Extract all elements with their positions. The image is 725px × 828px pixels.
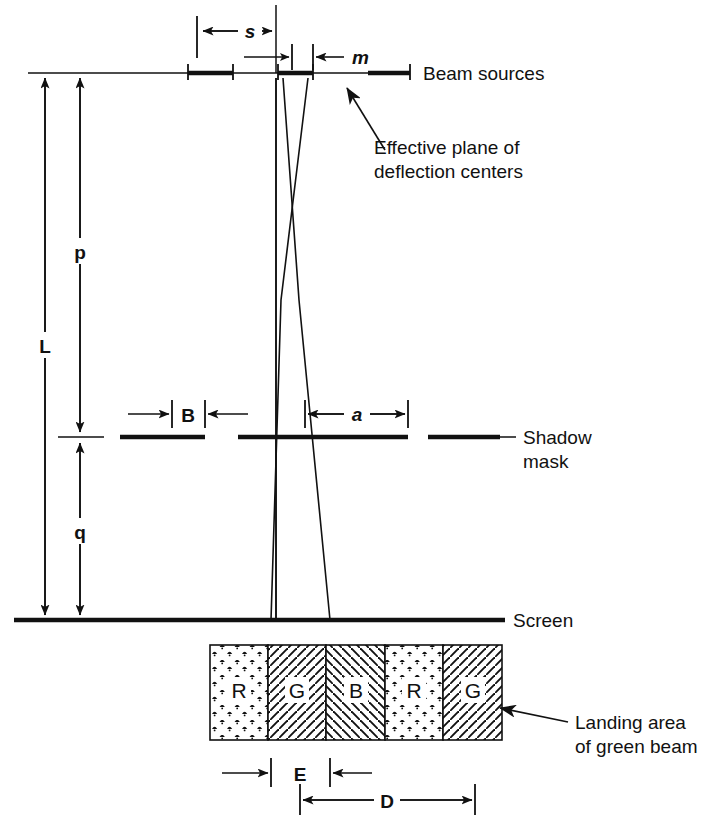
dimension-L-label: L	[39, 336, 51, 357]
shadow-mask-label-line2: mask	[523, 451, 569, 472]
phosphor-stripe-band: R G B R G	[210, 645, 502, 740]
crt-shadow-mask-diagram: s m Beam sources Effective plane of defl…	[0, 0, 725, 828]
beam-sources-label: Beam sources	[423, 63, 544, 84]
dimension-p-label: p	[74, 242, 86, 263]
dimension-q-label: q	[74, 522, 86, 543]
shadow-mask-label-line1: Shadow	[523, 427, 592, 448]
diagram-canvas: s m Beam sources Effective plane of defl…	[0, 0, 725, 828]
dimension-E-label: E	[294, 764, 307, 785]
stripe-letter-g-1: G	[289, 679, 305, 702]
effective-plane-label-line1: Effective plane of	[374, 137, 520, 158]
effective-plane-label-line2: deflection centers	[374, 161, 523, 182]
landing-area-label-line2: of green beam	[575, 736, 698, 757]
stripe-letter-g-2: G	[465, 679, 481, 702]
stripe-letter-b-1: B	[349, 679, 363, 702]
dimension-a-label: a	[352, 404, 363, 425]
dimension-B-label: B	[181, 405, 195, 426]
dimension-m-label: m	[352, 47, 369, 68]
screen-label: Screen	[513, 610, 573, 631]
dimension-s-label: s	[245, 21, 256, 42]
landing-area-label-line1: Landing area	[575, 712, 686, 733]
stripe-letter-r-1: R	[231, 679, 246, 702]
stripe-letter-r-2: R	[406, 679, 421, 702]
dimension-D-label: D	[380, 791, 394, 812]
